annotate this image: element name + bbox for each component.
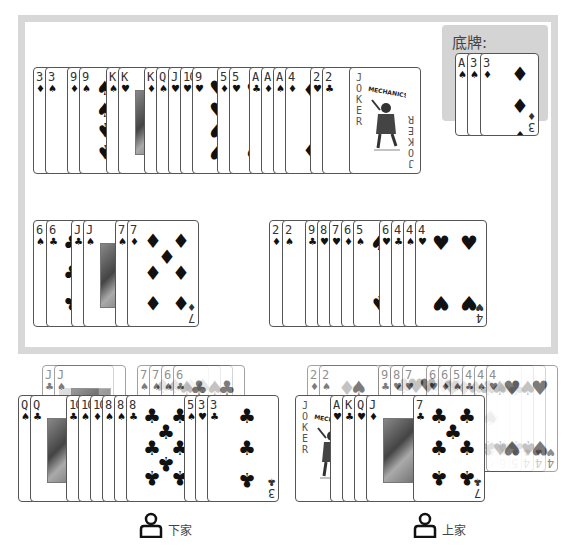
card-suit-icon: ♠ — [48, 84, 57, 94]
card-pip-icon: ♣ — [238, 438, 256, 458]
card-rank: 9 — [308, 224, 314, 236]
card-rank: K — [147, 71, 153, 83]
card-corner: 7♦ — [188, 301, 195, 323]
card-suit-icon: ♥ — [405, 382, 414, 392]
card-corner: 3♦ — [528, 110, 535, 132]
card-pip-icon: ♦ — [144, 263, 162, 283]
joker-label: JOKER — [406, 114, 416, 169]
card-suit-icon: ♦ — [220, 84, 229, 94]
card-corner: 4♥ — [476, 301, 483, 323]
card-suit-icon: ♦ — [36, 84, 45, 94]
card-suit-icon: ♣ — [345, 412, 354, 422]
card-suit-icon: ♦ — [483, 70, 492, 80]
card-suit-icon: ♠ — [140, 382, 149, 392]
card-suit-icon: ♠ — [57, 382, 66, 392]
card-rank: 2 — [322, 369, 328, 381]
card-rank: 4 — [406, 224, 412, 236]
card-suit-icon: ♠ — [164, 382, 173, 392]
card-rank: K — [121, 71, 127, 83]
card-rank: J — [171, 71, 177, 83]
card-suit-icon: ♠ — [406, 237, 415, 247]
card-suit-icon: ♣ — [33, 412, 42, 422]
card-rank: 6 — [49, 224, 55, 236]
card-rank: 5 — [232, 71, 238, 83]
card-rank: 5 — [187, 399, 193, 411]
card-suit-icon: ♣ — [465, 382, 474, 392]
card-suit-icon: ♣ — [129, 412, 138, 422]
card-suit-icon: ♣ — [416, 412, 425, 422]
card-rank: 5 — [220, 71, 226, 83]
card-rank: 5 — [453, 369, 459, 381]
card-rank: J — [74, 224, 80, 236]
card-suit-icon: ♥ — [171, 84, 180, 94]
card-rank: K — [345, 399, 351, 411]
card-pip-icon: ♣ — [430, 468, 448, 488]
playing-card[interactable]: 7♣♣♣♣♣♣♣♣7♣ — [413, 395, 485, 502]
card-pip-icon: ♦ — [511, 128, 529, 136]
card-rank: 7 — [405, 369, 411, 381]
card-rank: 2 — [272, 224, 278, 236]
card-rank: 3 — [36, 71, 42, 83]
card-pip-icon: ♥ — [432, 233, 450, 253]
card-suit-icon: ♦ — [441, 382, 450, 392]
card-suit-icon: ♣ — [252, 84, 261, 94]
card-rank: 9 — [70, 71, 76, 83]
card-suit-icon: ♦ — [310, 382, 319, 392]
card-rank: 3 — [210, 399, 216, 411]
card-rank: 9 — [82, 71, 88, 83]
card-suit-icon: ♣ — [176, 382, 185, 392]
user-icon — [412, 512, 438, 538]
card-rank: 3 — [198, 399, 204, 411]
card-rank: 6 — [382, 224, 388, 236]
jester-icon: MECHANICS — [366, 86, 406, 156]
card-suit-icon: ♣ — [74, 237, 83, 247]
card-rank: 3 — [48, 71, 54, 83]
card-suit-icon: ♥ — [429, 382, 438, 392]
card-rank: 2 — [310, 369, 316, 381]
card-suit-icon: ♠ — [453, 382, 462, 392]
card-rank: 2 — [325, 71, 331, 83]
card-rank: 7 — [332, 224, 338, 236]
card-rank: 6 — [344, 224, 350, 236]
card-pip-icon: ♥ — [503, 378, 521, 398]
card-rank: 9 — [195, 71, 201, 83]
card-pip-icon: ♣ — [238, 470, 256, 490]
previous-player[interactable]: 上家 — [412, 512, 466, 538]
user-icon — [138, 512, 164, 538]
card-suit-icon: ♠ — [109, 84, 118, 94]
card-corner: 4♥ — [547, 446, 554, 468]
card-suit-icon: ♠ — [322, 382, 331, 392]
card-rank: K — [109, 71, 115, 83]
bottom-cards-title: 底牌: — [452, 31, 487, 52]
card-suit-icon: ♠ — [470, 70, 479, 80]
card-suit-icon: ♠ — [159, 84, 168, 94]
card-rank: A — [252, 71, 258, 83]
card-rank: 3 — [483, 57, 489, 69]
card-suit-icon: ♣ — [210, 412, 219, 422]
card-corner: 7♣ — [474, 476, 481, 498]
card-rank: 2 — [285, 224, 291, 236]
card-suit-icon: ♥ — [393, 382, 402, 392]
card-rank: 7 — [140, 369, 146, 381]
card-suit-icon: ♠ — [105, 412, 114, 422]
card-rank: 7 — [416, 399, 422, 411]
card-pip-icon: ♣ — [430, 438, 448, 458]
card-suit-icon: ♥ — [418, 237, 427, 247]
card-suit-icon: ♣ — [49, 237, 58, 247]
card-suit-icon: ♥ — [333, 412, 342, 422]
card-rank: J — [86, 224, 92, 236]
card-rank: 6 — [164, 369, 170, 381]
next-player[interactable]: 下家 — [138, 512, 192, 538]
card-rank: J — [45, 369, 51, 381]
card-pip-icon: ♦ — [172, 263, 190, 283]
card-rank: 6 — [429, 369, 435, 381]
card-pip-icon: ♦ — [511, 64, 529, 84]
card-suit-icon: ♦ — [130, 237, 139, 247]
playing-card[interactable]: 3♣♣♣♣3♣ — [207, 395, 279, 502]
card-pip-icon: ♦ — [511, 96, 529, 116]
svg-text:MECHANICS: MECHANICS — [368, 86, 406, 99]
playing-card: 7♦♦♦♦♦♦♦♦7♦ — [127, 220, 199, 327]
card-suit-icon: ♥ — [183, 84, 192, 94]
card-pip-icon: ♥ — [531, 378, 549, 398]
card-suit-icon: ♥ — [332, 237, 341, 247]
